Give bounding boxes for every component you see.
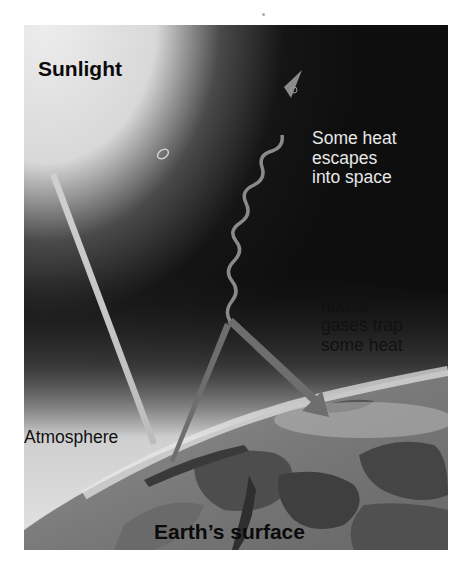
cloud-haze xyxy=(274,402,448,438)
page-speck xyxy=(262,13,265,16)
greenhouse-diagram: Sunlight Some heat escapes into space Gr… xyxy=(24,25,448,550)
atmosphere-label: Atmosphere xyxy=(24,428,118,448)
heat-escapes-label: Some heat escapes into space xyxy=(312,129,442,188)
earth-surface-label: Earth’s surface xyxy=(154,520,305,544)
greenhouse-gases-label: Green- house gases trap some heat xyxy=(321,277,446,355)
sunlight-label: Sunlight xyxy=(38,57,122,81)
